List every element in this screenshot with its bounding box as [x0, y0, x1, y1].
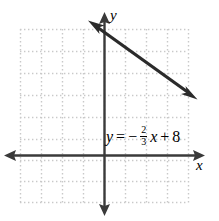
- plotted-line-layer: [0, 0, 219, 221]
- equation-line: [88, 21, 198, 100]
- equation-lhs: y: [106, 129, 113, 145]
- equation-fraction: 2 3: [140, 125, 147, 147]
- fraction-numerator: 2: [140, 125, 147, 136]
- equation-plus-sign: +: [160, 129, 169, 145]
- fraction-denominator: 3: [140, 137, 147, 148]
- equation-label: y = − 2 3 x + 8: [106, 126, 180, 148]
- equation-negative-sign: −: [128, 129, 137, 145]
- equation-variable: x: [150, 129, 157, 145]
- equation-constant: 8: [172, 129, 180, 145]
- axis-label-x: x: [196, 158, 203, 173]
- graph-figure: y x y = − 2 3 x + 8: [0, 0, 219, 221]
- equation-equals-sign: =: [116, 129, 125, 145]
- axis-label-y: y: [110, 8, 117, 23]
